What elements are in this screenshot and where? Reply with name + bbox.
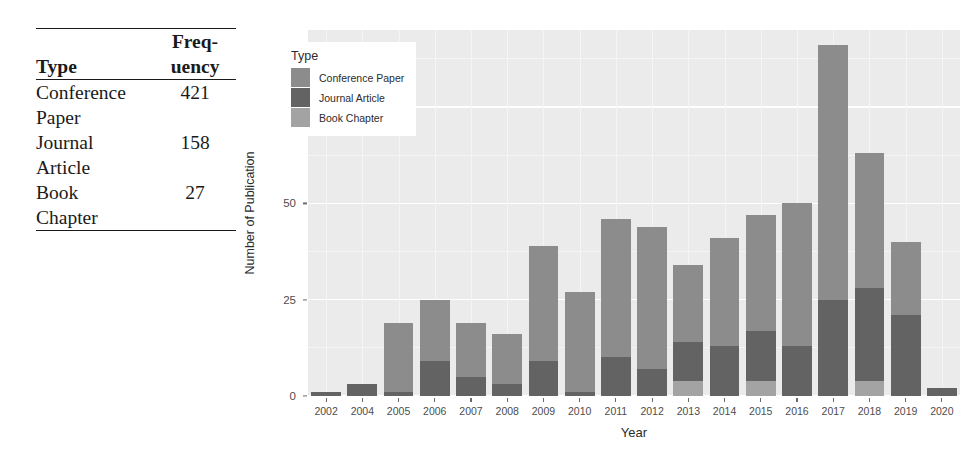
x-tick-label-2009: 2009 [532, 405, 555, 417]
cell-frequency: 158 [154, 130, 236, 155]
bar-2005[interactable] [384, 323, 414, 396]
bar-segment-journal-article[interactable] [384, 392, 414, 396]
y-tick-label-50: 50 [256, 197, 296, 209]
x-tick-label-2014: 2014 [713, 405, 736, 417]
bar-2006[interactable] [420, 300, 450, 396]
bar-segment-journal-article[interactable] [529, 361, 559, 396]
bar-segment-conference-paper[interactable] [456, 323, 486, 377]
x-tick-label-2010: 2010 [568, 405, 591, 417]
cell-frequency-empty [154, 205, 236, 231]
table-header-row-2: Type uency [36, 54, 236, 80]
table-row-continuation: Article [36, 155, 236, 180]
bar-segment-journal-article[interactable] [456, 377, 486, 396]
bar-segment-conference-paper[interactable] [746, 215, 776, 331]
bar-segment-conference-paper[interactable] [384, 323, 414, 392]
bar-2010[interactable] [565, 292, 595, 396]
x-tick-mark-2006 [434, 398, 435, 402]
x-tick-label-2007: 2007 [459, 405, 482, 417]
legend-item-book-chapter[interactable]: Book Chapter [291, 108, 404, 127]
bar-2019[interactable] [891, 242, 921, 396]
bar-segment-journal-article[interactable] [601, 357, 631, 396]
legend-entries: Conference PaperJournal ArticleBook Chap… [291, 68, 404, 127]
table-header-row-1: Freq- [36, 29, 236, 55]
x-tick-label-2020: 2020 [930, 405, 953, 417]
bar-segment-journal-article[interactable] [782, 346, 812, 396]
x-tick-mark-2017 [833, 398, 834, 402]
bar-2002[interactable] [311, 392, 341, 396]
bar-segment-conference-paper[interactable] [529, 246, 559, 362]
legend-item-journal-article[interactable]: Journal Article [291, 88, 404, 107]
bar-segment-journal-article[interactable] [891, 315, 921, 396]
bar-segment-journal-article[interactable] [746, 331, 776, 381]
table-row: Conference 421 [36, 80, 236, 106]
column-header-type: Type [36, 54, 154, 80]
bar-2020[interactable] [927, 388, 957, 396]
bar-segment-journal-article[interactable] [710, 346, 740, 396]
x-tick-label-2005: 2005 [387, 405, 410, 417]
bar-segment-conference-paper[interactable] [782, 203, 812, 346]
bar-segment-journal-article[interactable] [565, 392, 595, 396]
x-tick-mark-2012 [652, 398, 653, 402]
bar-segment-conference-paper[interactable] [601, 219, 631, 358]
bar-segment-conference-paper[interactable] [420, 300, 450, 362]
x-tick-label-2008: 2008 [496, 405, 519, 417]
bar-2013[interactable] [673, 265, 703, 396]
bar-segment-journal-article[interactable] [420, 361, 450, 396]
legend-item-label: Book Chapter [319, 112, 383, 124]
bar-2014[interactable] [710, 238, 740, 396]
x-tick-mark-2005 [398, 398, 399, 402]
x-tick-label-2018: 2018 [858, 405, 881, 417]
legend-swatch-icon [291, 108, 310, 127]
bar-segment-journal-article[interactable] [855, 288, 885, 380]
chart-legend: Type Conference PaperJournal ArticleBook… [282, 42, 416, 136]
bar-2017[interactable] [818, 45, 848, 396]
bar-segment-journal-article[interactable] [637, 369, 667, 396]
bar-2007[interactable] [456, 323, 486, 396]
cell-frequency: 421 [154, 80, 236, 106]
bar-2018[interactable] [855, 153, 885, 396]
cell-type-line2: Article [36, 155, 154, 180]
bar-segment-journal-article[interactable] [492, 384, 522, 396]
bar-2011[interactable] [601, 219, 631, 396]
column-header-frequency-line1: Freq- [154, 29, 236, 55]
y-tick-label-25: 25 [256, 294, 296, 306]
x-tick-label-2016: 2016 [785, 405, 808, 417]
table-header: Freq- Type uency [36, 29, 236, 80]
y-tick-mark-0 [303, 395, 307, 396]
bar-segment-conference-paper[interactable] [492, 334, 522, 384]
frequency-table: Freq- Type uency Conference 421 Paper Jo… [36, 28, 236, 231]
x-tick-label-2013: 2013 [677, 405, 700, 417]
bar-2012[interactable] [637, 226, 667, 396]
bar-2015[interactable] [746, 215, 776, 396]
bar-2009[interactable] [529, 246, 559, 396]
cell-type-line1: Conference [36, 80, 154, 106]
legend-item-conference-paper[interactable]: Conference Paper [291, 68, 404, 87]
bar-segment-conference-paper[interactable] [673, 265, 703, 342]
x-tick-mark-2009 [543, 398, 544, 402]
bar-segment-journal-article[interactable] [818, 300, 848, 396]
x-tick-label-2019: 2019 [894, 405, 917, 417]
frequency-table-container: Freq- Type uency Conference 421 Paper Jo… [36, 28, 236, 231]
bar-segment-conference-paper[interactable] [710, 238, 740, 346]
cell-type-line1: Journal [36, 130, 154, 155]
x-tick-label-2006: 2006 [423, 405, 446, 417]
bar-segment-conference-paper[interactable] [855, 153, 885, 288]
bar-segment-journal-article[interactable] [927, 388, 957, 396]
bar-segment-conference-paper[interactable] [818, 45, 848, 299]
bar-segment-book-chapter[interactable] [673, 381, 703, 396]
bar-segment-conference-paper[interactable] [565, 292, 595, 392]
bar-2016[interactable] [782, 203, 812, 396]
cell-frequency-empty [154, 155, 236, 180]
bar-2004[interactable] [347, 384, 377, 396]
bar-segment-journal-article[interactable] [311, 392, 341, 396]
bar-segment-journal-article[interactable] [347, 384, 377, 396]
cell-type-line1: Book [36, 180, 154, 205]
bar-segment-book-chapter[interactable] [855, 381, 885, 396]
bar-segment-conference-paper[interactable] [891, 242, 921, 315]
legend-swatch-icon [291, 68, 310, 87]
bar-segment-journal-article[interactable] [673, 342, 703, 381]
bar-segment-conference-paper[interactable] [637, 227, 667, 370]
bar-segment-book-chapter[interactable] [746, 381, 776, 396]
bar-2008[interactable] [492, 334, 522, 396]
cell-type-line2: Paper [36, 105, 154, 130]
